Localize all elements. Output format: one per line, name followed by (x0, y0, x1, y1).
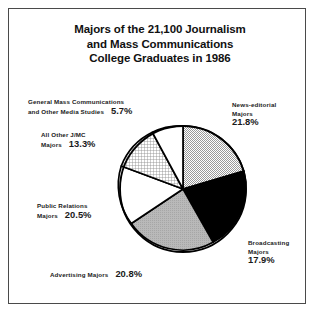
label-general-mass-communications: General Mass Communications and Other Me… (28, 98, 132, 116)
label-all-other-jmc: All Other J/MC Majors13.3% (41, 131, 95, 149)
pie-chart-graphic (0, 0, 320, 318)
label-broadcasting: Broadcasting Majors 17.9% (248, 239, 289, 265)
label-ad-percent: 20.8% (108, 268, 142, 279)
label-other-line-2: Majors13.3% (41, 140, 95, 150)
label-bc-line-1: Broadcasting (248, 239, 289, 248)
label-ad-line-1: Advertising Majors20.8% (50, 270, 142, 280)
label-pr-line-2: Majors20.5% (37, 211, 91, 221)
label-advertising: Advertising Majors20.8% (50, 270, 142, 280)
label-news-line-1: News-editorial (232, 101, 276, 110)
label-bc-percent: 17.9% (248, 256, 289, 265)
label-other-percent: 13.3% (62, 138, 96, 149)
label-news-percent: 21.8% (232, 118, 276, 127)
label-news-editorial: News-editorial Majors 21.8% (232, 101, 276, 127)
label-public-relations: Public Relations Majors20.5% (37, 202, 91, 220)
label-general-percent: 5.7% (104, 105, 132, 116)
pie-chart-figure: Majors of the 21,100 Journalism and Mass… (0, 0, 320, 318)
label-general-line-2: and Other Media Studies5.7% (28, 107, 132, 117)
label-pr-percent: 20.5% (58, 209, 92, 220)
